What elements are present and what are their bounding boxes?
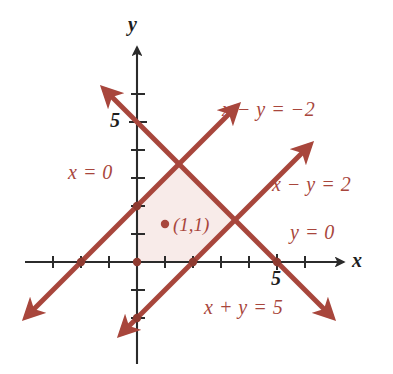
feasible-region-shading [137,164,235,262]
x-axis-tick-label-5: 5 [271,268,281,288]
vertex-dot-2-0 [189,258,197,266]
vertex-dot-0-neg2 [133,314,141,322]
label-line-x-minus-y-eq-2: x − y = 2 [272,174,351,194]
point-1-1-marker [161,220,169,228]
vertex-dot-origin [133,258,141,266]
y-axis-name-label: y [128,14,137,34]
vertex-dot-0-2 [133,202,141,210]
label-constraint-y-eq-0: y = 0 [290,222,335,242]
vertex-dot-neg2-0 [77,258,85,266]
y-axis-tick-label-5: 5 [110,110,120,130]
vertex-dot-5-0 [273,258,281,266]
label-line-x-plus-y-eq-5: x + y = 5 [204,297,283,317]
label-line-x-minus-y-eq-neg2: x − y = −2 [222,99,315,119]
x-axis-name-label: x [352,250,362,270]
label-constraint-x-eq-0: x = 0 [68,162,113,182]
label-point-1-1: (1,1) [173,215,209,234]
